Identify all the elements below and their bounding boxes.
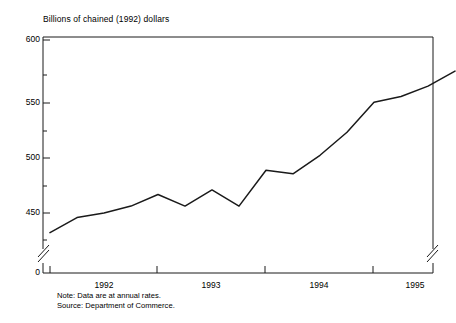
note-line: Note: Data are at annual rates.	[57, 291, 175, 301]
plot-frame	[43, 37, 433, 273]
source-line: Source: Department of Commerce.	[57, 301, 175, 311]
data-line-series-0	[50, 71, 455, 233]
chart-notes: Note: Data are at annual rates. Source: …	[57, 291, 175, 312]
y-axis-major-ticks	[43, 40, 50, 213]
chart-figure: Billions of chained (1992) dollars 600 5…	[0, 0, 456, 323]
plot-svg	[0, 0, 456, 323]
x-axis-ticks	[50, 266, 373, 273]
